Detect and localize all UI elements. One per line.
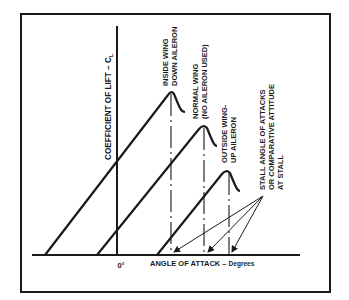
stall-annotation-line3: AT STALL <box>276 154 285 190</box>
x-axis-label: ANGLE OF ATTACK – Degrees <box>150 259 255 268</box>
curve-label-normal-wing-line1: NORMAL WING <box>191 64 200 119</box>
arrow-to-normal-wing-stall <box>208 196 263 252</box>
curve-label-inside-wing-line1: INSIDE WING <box>161 38 170 86</box>
curve-label-outside-wing-line1: OUTSIDE WING- <box>220 104 229 163</box>
curve-inside-wing-down-aileron: INSIDE WING DOWN AILERON <box>45 27 185 255</box>
stall-arrows <box>174 196 263 252</box>
arrow-to-outside-wing-stall <box>232 196 263 252</box>
stall-annotation-line1: STALL ANGLE OF ATTACKS <box>258 89 267 190</box>
curve-label-normal-wing-line2: (NO AILERON USED) <box>200 44 209 119</box>
x-axis-origin-label: 0° <box>117 261 124 270</box>
stall-annotation: STALL ANGLE OF ATTACKS OR COMPARATIVE AT… <box>258 84 285 190</box>
stall-annotation-line2: OR COMPARATIVE ATTITUDE <box>267 84 276 190</box>
y-axis-label: COEFFICIENT OF LIFT – CL <box>104 53 114 160</box>
arrow-to-inside-wing-stall <box>174 196 263 252</box>
lift-vs-angle-of-attack-diagram: COEFFICIENT OF LIFT – CL INSIDE WING DOW… <box>0 0 349 300</box>
curve-label-inside-wing-line2: DOWN AILERON <box>170 27 179 86</box>
curve-label-outside-wing-line2: UP AILERON <box>229 117 238 163</box>
curve-normal-wing: NORMAL WING (NO AILERON USED) <box>97 44 217 255</box>
